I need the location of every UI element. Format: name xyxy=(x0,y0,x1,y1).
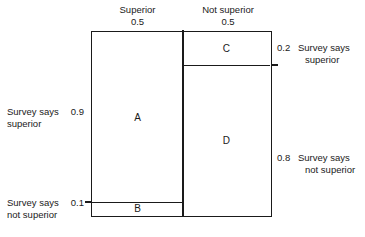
cropped-caption-remnant xyxy=(150,231,220,237)
right-annotation-not-superior-line1: Survey says xyxy=(298,152,350,164)
right-annotation-superior: 0.2 Survey says superior xyxy=(277,42,365,66)
left-column-row-divider-line xyxy=(92,202,183,204)
left-value-0-1-text: 0.1 xyxy=(71,197,84,208)
right-annotation-not-superior: 0.8 Survey says not superior xyxy=(277,152,365,176)
left-axis-tick-0-1 xyxy=(85,201,92,202)
probability-area-diagram: Superior 0.5 Not superior 0.5 A B C D xyxy=(0,0,365,237)
right-annotation-superior-line1: Survey says xyxy=(298,42,350,54)
left-value-0-9: 0.9 xyxy=(62,106,84,118)
left-annotation-not-superior: Survey says not superior xyxy=(7,197,69,220)
right-annotation-superior-line2: superior xyxy=(305,54,339,66)
left-annotation-not-superior-line2: not superior xyxy=(7,209,69,221)
left-annotation-superior: Survey says superior xyxy=(7,106,69,129)
left-value-0-9-text: 0.9 xyxy=(71,106,84,117)
left-annotation-not-superior-line1: Survey says xyxy=(7,197,69,209)
column-header-not-superior-value: 0.5 xyxy=(184,16,272,28)
region-b: B xyxy=(92,202,183,214)
column-header-superior-value: 0.5 xyxy=(91,16,184,28)
region-d-label: D xyxy=(223,135,230,146)
unit-square: A B C D xyxy=(91,31,272,217)
right-value-0-8: 0.8 xyxy=(277,152,290,164)
region-a-label: A xyxy=(134,112,141,123)
column-header-superior-label: Superior xyxy=(91,4,184,16)
right-value-0-2: 0.2 xyxy=(277,42,290,54)
column-header-not-superior: Not superior 0.5 xyxy=(184,4,272,28)
region-b-label: B xyxy=(134,203,141,214)
region-c: C xyxy=(183,32,269,65)
right-column-row-divider-line xyxy=(183,65,269,67)
left-annotation-superior-line2: superior xyxy=(7,118,69,130)
column-header-superior: Superior 0.5 xyxy=(91,4,184,28)
column-divider-line xyxy=(182,30,184,216)
column-header-not-superior-label: Not superior xyxy=(184,4,272,16)
right-annotation-not-superior-line2: not superior xyxy=(305,164,355,176)
left-annotation-superior-line1: Survey says xyxy=(7,106,69,118)
region-c-label: C xyxy=(223,43,230,54)
region-d: D xyxy=(183,65,269,214)
region-a: A xyxy=(92,32,183,202)
left-value-0-1: 0.1 xyxy=(62,197,84,209)
